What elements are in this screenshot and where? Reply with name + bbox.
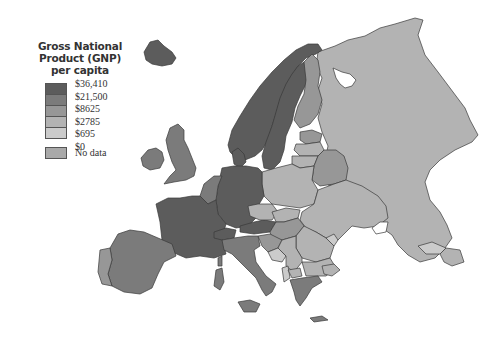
legend-title-line-3: per capita: [30, 64, 130, 76]
region-uk: [164, 124, 196, 184]
region-armenia-azerbaijan: [440, 248, 464, 266]
legend-label-5: $695: [75, 128, 108, 141]
region-iceland: [144, 40, 176, 66]
region-crete: [310, 316, 328, 322]
legend-label-3: $8625: [75, 103, 108, 116]
legend-title-line-2: Product (GNP): [30, 52, 130, 64]
legend-title-line-1: Gross National: [30, 40, 130, 52]
legend-label-4: $2785: [75, 116, 108, 129]
region-corsica: [218, 256, 222, 266]
region-ireland: [141, 148, 164, 170]
legend-label-1: $36,410: [75, 78, 108, 91]
region-sicily: [238, 300, 260, 312]
legend-scale: $36,410 $21,500 $8625 $2785 $695 $0: [45, 83, 130, 139]
legend-label-6: $0: [75, 141, 108, 154]
legend-title: Gross National Product (GNP) per capita: [30, 40, 130, 76]
region-turkey: [322, 264, 340, 276]
legend-swatch-5: [45, 127, 67, 139]
region-portugal: [98, 248, 112, 286]
legend-label-2: $21,500: [75, 91, 108, 104]
legend: Gross National Product (GNP) per capita …: [30, 40, 130, 160]
legend-swatch-no-data: [45, 147, 67, 159]
region-poland: [262, 164, 318, 208]
region-sardinia: [214, 268, 224, 290]
region-greece: [290, 276, 322, 306]
legend-labels: $36,410 $21,500 $8625 $2785 $695 $0: [75, 78, 108, 153]
region-latvia: [294, 142, 324, 156]
